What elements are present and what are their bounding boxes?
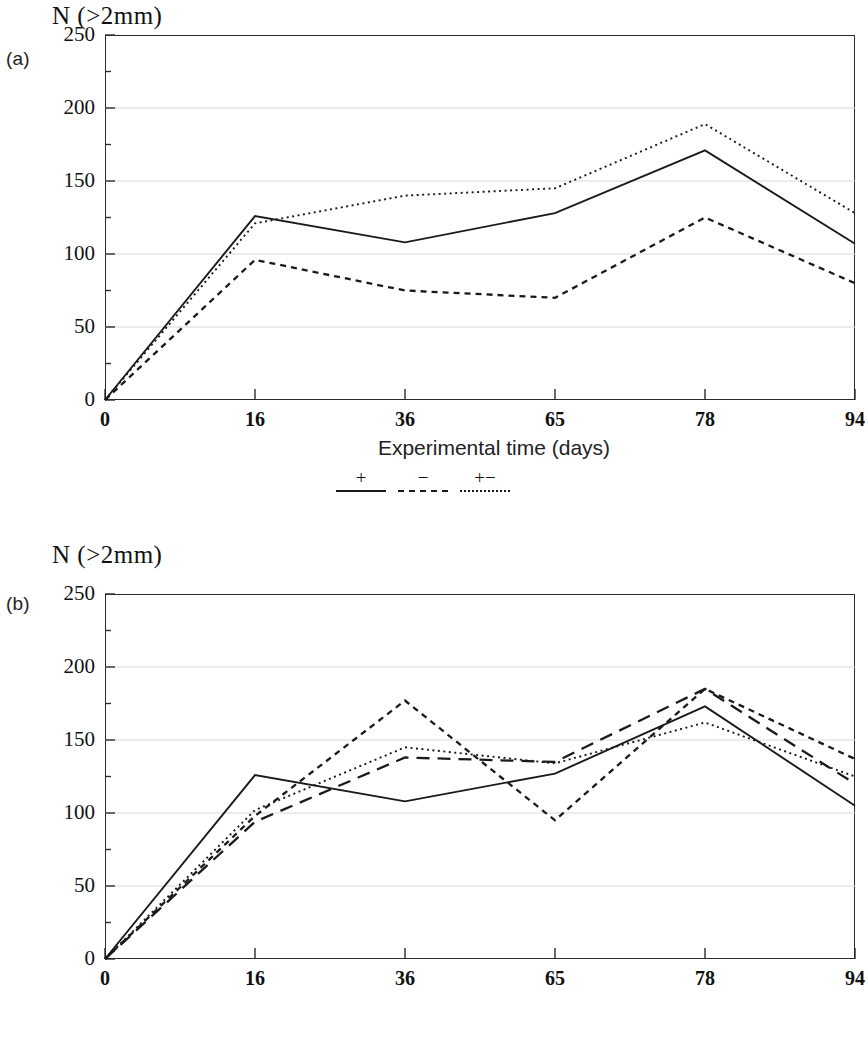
x-axis-title-a: Experimental time (days) xyxy=(60,436,868,460)
y-tick-label: 150 xyxy=(33,168,95,193)
y-tick-label: 150 xyxy=(33,727,95,752)
plot-area-b: 050100150200250 01636657894 xyxy=(0,519,868,939)
legend-item: + xyxy=(330,470,392,492)
x-tick-label: 16 xyxy=(220,408,290,431)
y-tick-label: 200 xyxy=(33,654,95,679)
y-tick-label: 100 xyxy=(33,800,95,825)
legend-swatch xyxy=(398,490,448,492)
y-tick-label: 200 xyxy=(33,95,95,120)
x-tick-label: 65 xyxy=(520,967,590,990)
series-line-+x− xyxy=(105,689,855,959)
legend-label: − xyxy=(418,470,429,487)
legend-label: +− xyxy=(474,470,495,487)
legend-label: + xyxy=(356,470,367,487)
series-line-+x xyxy=(105,722,855,959)
y-tick-label: 50 xyxy=(33,314,95,339)
y-tick-label: 100 xyxy=(33,241,95,266)
y-tick-label: 50 xyxy=(33,873,95,898)
x-tick-label: 16 xyxy=(220,967,290,990)
legend-swatch xyxy=(336,490,386,492)
plot-svg-b xyxy=(105,594,855,959)
chart-panel-a: (a) N (>2mm) 050100150200250 01636657894… xyxy=(0,0,868,519)
x-tick-label: 36 xyxy=(370,967,440,990)
series-line-+ xyxy=(105,150,855,400)
legend-item: − xyxy=(392,470,454,492)
y-tick-label: 250 xyxy=(33,581,95,606)
series-line-− xyxy=(105,218,855,401)
x-tick-label: 78 xyxy=(670,967,740,990)
x-tick-label: 94 xyxy=(820,408,868,431)
series-line-x xyxy=(105,689,855,959)
chart-panel-b: (b) N (>2mm) 050100150200250 01636657894… xyxy=(0,519,868,1039)
x-tick-label: 65 xyxy=(520,408,590,431)
x-tick-label: 0 xyxy=(70,408,140,431)
x-tick-label: 78 xyxy=(670,408,740,431)
x-tick-label: 0 xyxy=(70,967,140,990)
plot-area-a: 050100150200250 01636657894 xyxy=(0,0,868,410)
legend-item: +− xyxy=(454,470,516,492)
x-tick-label: 36 xyxy=(370,408,440,431)
x-tick-label: 94 xyxy=(820,967,868,990)
series-line-+ xyxy=(105,706,855,959)
y-tick-label: 250 xyxy=(33,22,95,47)
legend-a: +−+− xyxy=(330,470,516,492)
plot-svg-a xyxy=(105,35,855,400)
legend-swatch xyxy=(460,490,510,492)
